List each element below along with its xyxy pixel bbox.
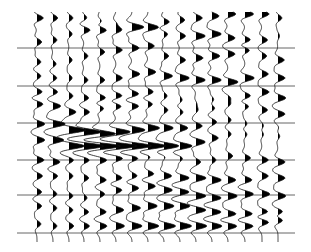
seismic-wiggle-plot bbox=[0, 0, 311, 252]
positive-lobe-fill bbox=[228, 12, 238, 242]
wiggle-trace bbox=[257, 12, 269, 242]
positive-lobe-fill bbox=[245, 12, 254, 242]
positive-lobe-fill bbox=[278, 12, 286, 242]
wiggle-trace bbox=[272, 12, 285, 242]
wiggle-trace bbox=[203, 12, 221, 242]
wiggle-trace bbox=[221, 12, 238, 242]
positive-lobe-fill bbox=[180, 12, 192, 242]
positive-lobe-fill bbox=[212, 12, 222, 242]
wiggle-trace bbox=[238, 12, 254, 242]
wiggle-trace bbox=[84, 12, 120, 242]
positive-lobe-fill bbox=[84, 12, 104, 242]
